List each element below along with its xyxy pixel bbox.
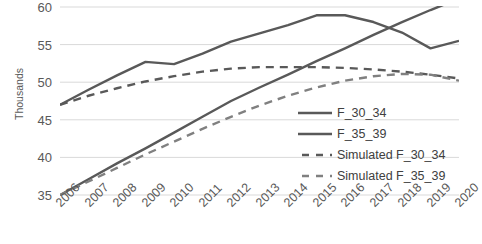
legend-item-label: Simulated F_30_34 xyxy=(337,149,445,161)
legend-item-label: F_35_39 xyxy=(337,128,386,140)
x-tick-label: 2012 xyxy=(224,180,254,210)
x-tick-label: 2009 xyxy=(139,180,169,210)
x-tick-label: 2007 xyxy=(82,180,112,210)
legend-item[interactable]: Simulated F_30_34 xyxy=(298,144,466,165)
x-tick-label: 2008 xyxy=(110,180,140,210)
legend-line-swatch-icon xyxy=(298,128,332,140)
x-tick-label: 2010 xyxy=(167,180,197,210)
legend-item[interactable]: Simulated F_35_39 xyxy=(298,165,466,186)
legend-item-label: Simulated F_35_39 xyxy=(337,170,445,182)
x-tick-label: 2011 xyxy=(196,181,225,210)
x-tick-label: 2006 xyxy=(53,180,83,210)
x-tick-label: 2013 xyxy=(253,180,283,210)
legend-item-label: F_30_34 xyxy=(337,107,386,119)
legend-line-swatch-icon xyxy=(298,107,332,119)
legend-item[interactable]: F_30_34 xyxy=(298,102,466,123)
legend-line-swatch-icon xyxy=(298,149,332,161)
legend-item[interactable]: F_35_39 xyxy=(298,123,466,144)
chart-legend: F_30_34F_35_39Simulated F_30_34Simulated… xyxy=(298,102,466,186)
legend-line-swatch-icon xyxy=(298,170,332,182)
